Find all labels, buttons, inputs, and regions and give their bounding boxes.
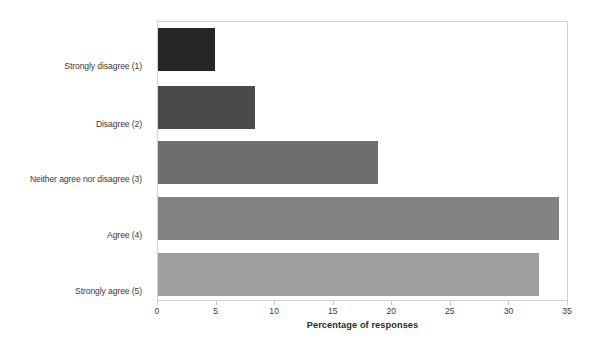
x-tick-mark	[567, 301, 568, 305]
x-tick-label: 15	[328, 306, 338, 316]
x-tick-mark	[157, 301, 158, 305]
bar-row	[158, 86, 568, 129]
category-axis-labels: Strongly disagree (1) Disagree (2) Neith…	[0, 22, 150, 300]
category-label-strongly-agree: Strongly agree (5)	[0, 286, 142, 296]
category-label-neither: Neither agree nor disagree (3)	[0, 174, 142, 184]
bar-strongly-disagree	[158, 28, 215, 71]
x-tick-label: 10	[269, 306, 279, 316]
bar-row	[158, 141, 568, 184]
category-label-disagree: Disagree (2)	[0, 119, 142, 129]
bars-layer	[158, 22, 568, 300]
x-tick-label: 25	[445, 306, 455, 316]
category-label-agree: Agree (4)	[0, 230, 142, 240]
x-tick-label: 35	[562, 306, 572, 316]
bar-strongly-agree	[158, 253, 539, 296]
bar-row	[158, 28, 568, 71]
x-tick-mark	[508, 301, 509, 305]
bar-disagree	[158, 86, 255, 129]
x-tick-mark	[450, 301, 451, 305]
bar-row	[158, 197, 568, 240]
bar-chart-figure: Strongly disagree (1) Disagree (2) Neith…	[0, 0, 601, 351]
x-tick-mark	[274, 301, 275, 305]
bar-row	[158, 253, 568, 296]
bar-agree	[158, 197, 559, 240]
x-axis-title: Percentage of responses	[157, 320, 568, 330]
category-label-strongly-disagree: Strongly disagree (1)	[0, 61, 142, 71]
x-tick-label: 5	[213, 306, 218, 316]
bar-neither	[158, 141, 378, 184]
x-tick-mark	[391, 301, 392, 305]
x-tick-label: 20	[387, 306, 397, 316]
x-tick-mark	[216, 301, 217, 305]
x-tick-label: 0	[155, 306, 160, 316]
x-tick-mark	[333, 301, 334, 305]
x-tick-label: 30	[504, 306, 514, 316]
